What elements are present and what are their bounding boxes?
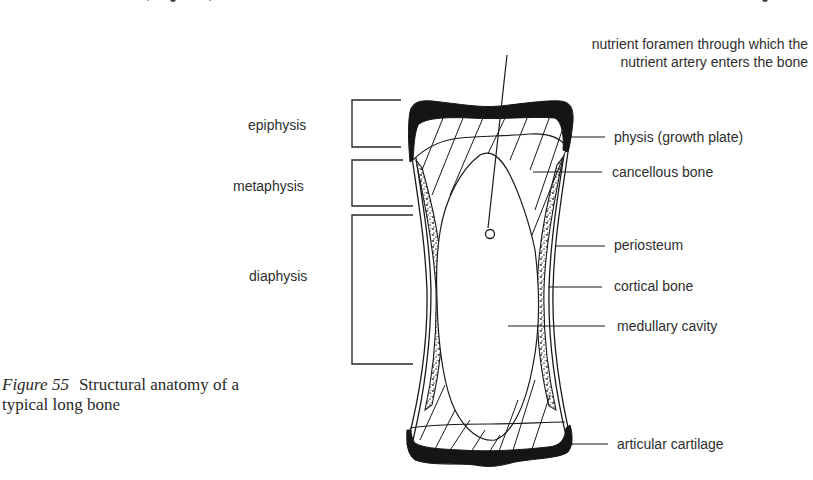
cancellous-bone-label: cancellous bone — [612, 164, 713, 180]
top-articular-cartilage — [409, 101, 574, 162]
physis-label: physis (growth plate) — [614, 129, 743, 145]
nutrient-foramen-label-line1: nutrient foramen through which the — [488, 35, 808, 53]
diaphysis-label: diaphysis — [249, 268, 307, 284]
region-brackets — [352, 100, 413, 364]
metaphysis-label: metaphysis — [233, 178, 304, 194]
cortical-bone-label: cortical bone — [614, 278, 693, 294]
epiphysis-label: epiphysis — [248, 117, 306, 133]
figure-number: Figure 55 — [2, 375, 69, 394]
nutrient-foramen-label-line2: nutrient artery enters the bone — [488, 53, 808, 71]
cut-off-text-fragments — [147, 0, 769, 2]
medullary-cavity-label: medullary cavity — [617, 318, 717, 334]
figure-caption: Figure 55Structural anatomy of a typical… — [2, 375, 302, 415]
epiphysis-bracket — [352, 100, 401, 147]
caption-line2: typical long bone — [2, 395, 302, 415]
metaphysis-bracket — [352, 160, 413, 206]
diaphysis-bracket — [352, 215, 413, 364]
medullary-cavity-outline — [437, 153, 539, 440]
periosteum-label: periosteum — [614, 237, 683, 253]
articular-cartilage-label: articular cartilage — [617, 436, 724, 452]
nutrient-foramen-label: nutrient foramen through which the nutri… — [488, 35, 808, 71]
caption-line1: Structural anatomy of a — [79, 375, 239, 394]
